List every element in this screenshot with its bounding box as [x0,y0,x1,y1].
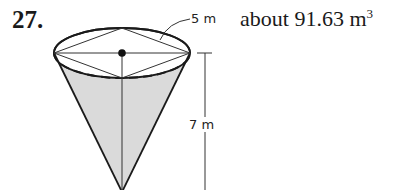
height-label: 7 m [188,117,215,132]
radius-label: 5 m [191,11,216,26]
cone-figure [0,0,418,190]
center-dot [118,49,126,57]
